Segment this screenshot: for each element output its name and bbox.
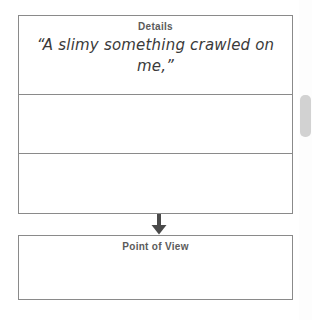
table-row-blank-1[interactable] — [19, 95, 292, 154]
details-row-2-text — [19, 95, 292, 97]
scrollbar-thumb[interactable] — [300, 95, 311, 137]
details-row-3-text — [19, 154, 292, 156]
point-of-view-heading: Point of View — [19, 240, 292, 253]
scrollbar-track[interactable] — [299, 0, 312, 320]
graphic-organizer: Details “A slimy something crawled on me… — [0, 0, 312, 320]
details-quote-text: “A slimy something crawled on me,” — [19, 33, 292, 77]
details-table: Details “A slimy something crawled on me… — [18, 15, 293, 214]
table-row-details[interactable]: Details “A slimy something crawled on me… — [19, 16, 292, 95]
table-row-blank-2[interactable] — [19, 154, 292, 213]
arrow-down-icon — [148, 214, 170, 235]
details-heading: Details — [19, 20, 292, 33]
point-of-view-text — [19, 253, 292, 255]
point-of-view-box[interactable]: Point of View — [18, 235, 293, 300]
